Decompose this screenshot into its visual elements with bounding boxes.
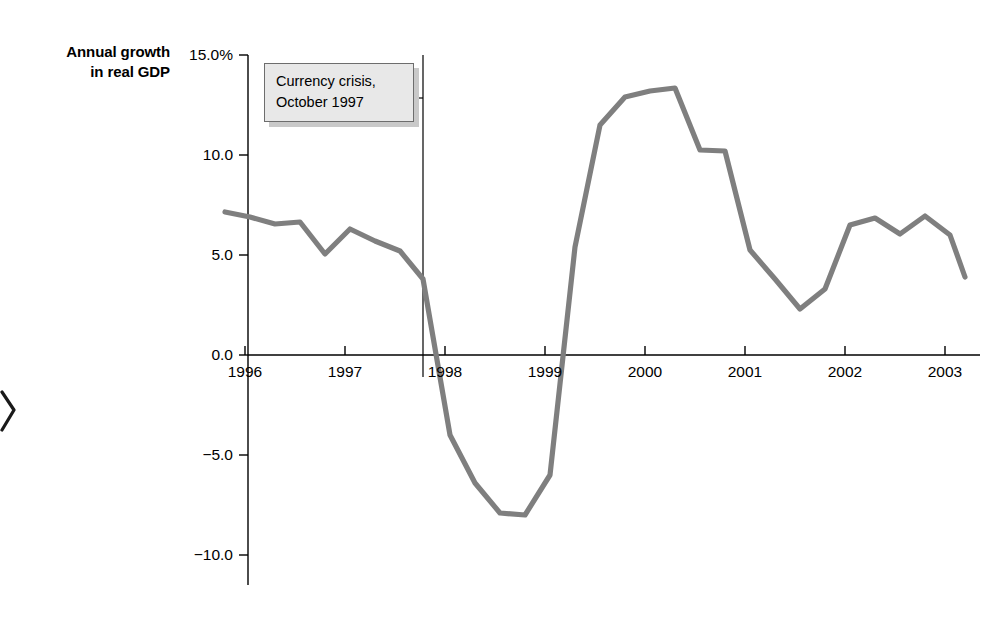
data-series-line: [225, 88, 965, 515]
x-axis-tick-label: 1997: [310, 364, 380, 380]
callout-line1: Currency crisis,: [276, 71, 404, 92]
data-series-layer: [225, 88, 965, 515]
y-axis-tick-label: −10.0: [155, 547, 233, 563]
currency-crisis-callout: Currency crisis, October 1997: [264, 63, 414, 122]
y-axis-title-line2: in real GDP: [10, 62, 170, 82]
y-axis-tick-label: 5.0: [155, 247, 233, 263]
callout-line2: October 1997: [276, 92, 404, 113]
x-axis-tick-label: 2002: [810, 364, 880, 380]
gdp-growth-chart-figure: Annual growth in real GDP 15.0%10.05.00.…: [0, 0, 990, 636]
y-axis-tick-label: 15.0%: [155, 47, 233, 63]
page-edge-artifact: [2, 392, 14, 430]
x-axis-tick-label: 2000: [610, 364, 680, 380]
y-axis-tick-label: −5.0: [155, 447, 233, 463]
y-axis-tick-label: 0.0: [155, 347, 233, 363]
plot-area: [0, 0, 990, 636]
axis-layer: [239, 55, 980, 585]
x-axis-tick-label: 1996: [210, 364, 280, 380]
y-axis-title: Annual growth in real GDP: [10, 42, 170, 83]
x-axis-tick-label: 1998: [410, 364, 480, 380]
y-axis-tick-label: 10.0: [155, 147, 233, 163]
x-axis-tick-label: 2003: [910, 364, 980, 380]
crisis-marker-layer: [414, 55, 423, 377]
x-axis-tick-label: 1999: [510, 364, 580, 380]
x-axis-tick-label: 2001: [710, 364, 780, 380]
